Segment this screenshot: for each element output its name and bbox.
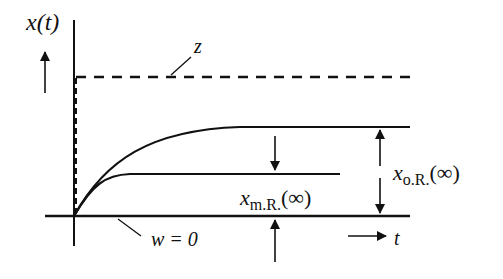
z-leader — [171, 57, 191, 75]
offset-m-label: xm.R.(∞) — [239, 185, 311, 213]
y-axis-label: x(t) — [25, 9, 59, 35]
w-leader — [118, 219, 141, 236]
setpoint-label: z — [193, 35, 202, 57]
disturbance-label: w = 0 — [151, 228, 198, 250]
x-axis-label: t — [394, 227, 400, 249]
offset-o-label: xo.R.(∞) — [392, 160, 460, 188]
step-response-diagram: x(t) z w = 0 t xm.R.(∞) xo.R.(∞) — [0, 0, 503, 279]
